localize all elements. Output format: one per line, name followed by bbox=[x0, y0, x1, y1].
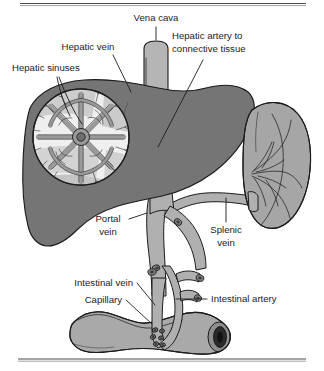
label-hepatic-sinuses: Hepatic sinuses bbox=[12, 62, 80, 73]
label-capillary: Capillary bbox=[85, 294, 123, 305]
label-vena-cava: Vena cava bbox=[134, 12, 179, 23]
figure-root: Vena cava Hepatic vein Hepatic sinuses H… bbox=[0, 0, 324, 371]
label-splenic-vein-line2: vein bbox=[217, 237, 235, 248]
label-portal-vein-line2: vein bbox=[99, 226, 117, 237]
splenic-vein-trunk bbox=[248, 192, 258, 212]
anatomy-diagram-svg: Vena cava Hepatic vein Hepatic sinuses H… bbox=[0, 0, 324, 371]
label-hepatic-vein: Hepatic vein bbox=[62, 41, 115, 52]
label-hepatic-artery-line2: connective tissue bbox=[172, 43, 246, 54]
figure-bottom-rule bbox=[18, 359, 306, 361]
label-intestinal-artery: Intestinal artery bbox=[211, 293, 277, 304]
leader-portal-vein bbox=[129, 213, 147, 219]
label-portal-vein-line1: Portal bbox=[95, 213, 120, 224]
figure-top-rule bbox=[20, 4, 306, 6]
label-intestinal-vein: Intestinal vein bbox=[74, 277, 133, 288]
label-hepatic-artery-line1: Hepatic artery to bbox=[172, 30, 242, 41]
intestine bbox=[70, 312, 231, 354]
label-splenic-vein-line1: Splenic bbox=[210, 224, 242, 235]
